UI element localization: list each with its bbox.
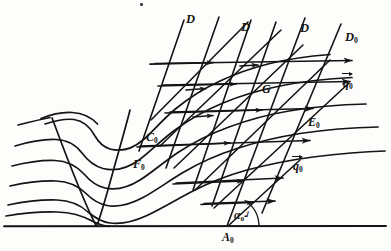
label-angle-alpha0: α0┙ [234,210,249,223]
label-characteristic-3: D [300,22,309,35]
diagram-svg [0,0,391,251]
streamline-5 [10,127,378,206]
fan-edge-left [52,118,96,226]
tick-arrow-c [240,65,258,66]
label-point-c0: C0 [146,131,158,144]
label-origin-a0: A0 [222,231,234,244]
diagram-canvas: D D D D0 C0 F0 G E0 q0 q0 α0┙ A0 [0,0,391,251]
label-velocity-vector-lower: q0 [293,160,303,173]
label-region-g: G [262,83,271,95]
ink-speck [140,3,143,6]
label-velocity-vector-upper: q0 [343,77,353,90]
label-characteristic-1: D [186,13,195,26]
streamline-group [6,55,385,227]
label-characteristic-2: D [241,21,250,34]
label-characteristic-0: D0 [345,31,358,45]
label-region-f0: F0 [133,158,145,171]
label-region-e0: E0 [308,116,320,129]
velocity-arrow-group [137,61,352,205]
cross-characteristic-5 [214,83,349,208]
